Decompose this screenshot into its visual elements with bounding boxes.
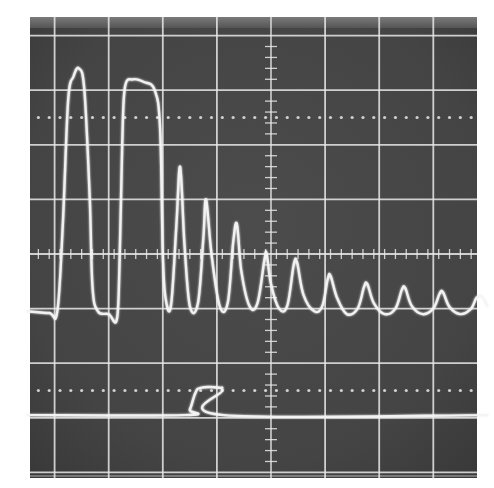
reference-dot	[221, 116, 224, 119]
reference-dot	[448, 116, 451, 119]
reference-dot	[199, 389, 202, 392]
reference-dot	[307, 116, 310, 119]
reference-dot	[361, 116, 364, 119]
reference-dot	[145, 116, 148, 119]
reference-dot	[318, 116, 321, 119]
reference-dot	[394, 116, 397, 119]
reference-dot	[80, 116, 83, 119]
reference-dot	[242, 116, 245, 119]
reference-dot	[145, 389, 148, 392]
reference-dot	[113, 116, 116, 119]
reference-dot	[80, 389, 83, 392]
reference-dot	[69, 116, 72, 119]
reference-dot	[253, 116, 256, 119]
reference-dot	[123, 389, 126, 392]
reference-dot	[275, 116, 278, 119]
reference-dot	[383, 389, 386, 392]
reference-dot	[102, 389, 105, 392]
reference-dot	[134, 389, 137, 392]
reference-dot	[37, 389, 40, 392]
reference-dot	[372, 116, 375, 119]
reference-dot	[286, 116, 289, 119]
reference-dot	[329, 116, 332, 119]
reference-dot	[113, 389, 116, 392]
reference-dot	[91, 389, 94, 392]
screen-background	[30, 17, 477, 478]
reference-dot	[264, 389, 267, 392]
reference-dot	[48, 116, 51, 119]
reference-dot	[58, 116, 61, 119]
reference-dot	[210, 389, 213, 392]
reference-dot	[351, 116, 354, 119]
reference-dot	[242, 389, 245, 392]
reference-dot	[102, 116, 105, 119]
reference-dot	[437, 389, 440, 392]
reference-dot	[415, 116, 418, 119]
reference-dot	[275, 389, 278, 392]
reference-dot	[199, 116, 202, 119]
reference-dot	[361, 389, 364, 392]
reference-dot	[459, 116, 462, 119]
reference-dot	[351, 389, 354, 392]
reference-dot	[286, 389, 289, 392]
reference-dot	[372, 389, 375, 392]
reference-dot	[296, 116, 299, 119]
reference-dot	[470, 116, 473, 119]
reference-dot	[188, 116, 191, 119]
reference-dot	[394, 389, 397, 392]
reference-dot	[459, 389, 462, 392]
reference-dot	[167, 389, 170, 392]
reference-dot	[48, 389, 51, 392]
reference-dot	[167, 116, 170, 119]
reference-dot	[383, 116, 386, 119]
reference-dot	[177, 116, 180, 119]
reference-dot	[37, 116, 40, 119]
reference-dot	[340, 389, 343, 392]
reference-dot	[296, 389, 299, 392]
oscilloscope-screen	[0, 0, 494, 488]
reference-dot	[405, 116, 408, 119]
reference-dot	[232, 389, 235, 392]
reference-dot	[448, 389, 451, 392]
reference-dot	[69, 389, 72, 392]
reference-dot	[470, 389, 473, 392]
reference-dot	[426, 389, 429, 392]
reference-dot	[437, 116, 440, 119]
reference-dot	[253, 389, 256, 392]
reference-dot	[188, 389, 191, 392]
reference-dot	[329, 389, 332, 392]
reference-dot	[91, 116, 94, 119]
reference-dot	[307, 389, 310, 392]
reference-dot	[264, 116, 267, 119]
screen-top-band	[30, 17, 477, 28]
reference-dot	[340, 116, 343, 119]
reference-dot	[177, 389, 180, 392]
reference-dot	[134, 116, 137, 119]
reference-dot	[156, 389, 159, 392]
reference-dot	[405, 389, 408, 392]
reference-dot	[318, 389, 321, 392]
reference-dot	[58, 389, 61, 392]
reference-dot	[426, 116, 429, 119]
reference-dot	[415, 389, 418, 392]
reference-dot	[210, 116, 213, 119]
reference-dot	[232, 116, 235, 119]
